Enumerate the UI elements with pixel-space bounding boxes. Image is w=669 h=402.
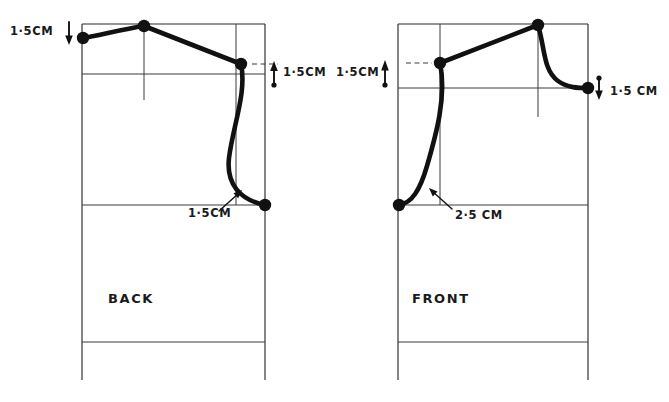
back-piece-group: 1·5CM 1·5CM 1·5CM BACK (10, 20, 326, 380)
back-shoulder-raise-label: 1·5CM (283, 65, 326, 79)
back-shoulder-seam-line (83, 26, 241, 64)
front-shoulder-seam-line (440, 25, 538, 63)
back-piece-label: BACK (108, 291, 154, 306)
front-underarm-dot (393, 199, 405, 211)
front-shoulder-drop-arrow (595, 75, 603, 100)
front-neck-raise-arrow (381, 60, 389, 88)
back-shoulder-end-dot (235, 58, 247, 70)
back-shoulder-raise-arrow (270, 61, 278, 88)
back-armhole-scoop-label: 1·5CM (188, 206, 231, 220)
back-shoulder-apex-dot (138, 20, 150, 32)
front-neck-raise-label: 1·5CM (336, 65, 379, 79)
front-piece-group: 1·5CM 1·5 CM 2·5 CM FRONT (336, 19, 658, 380)
pattern-drawing-canvas: 1·5CM 1·5CM 1·5CM BACK (0, 0, 669, 402)
back-armhole-curve (229, 64, 265, 205)
pattern-diagram: 1·5CM 1·5CM 1·5CM BACK (0, 0, 669, 402)
front-neck-point-dot (434, 57, 446, 69)
front-shoulder-drop-label: 1·5 CM (610, 84, 658, 98)
front-armhole-scoop-label: 2·5 CM (455, 208, 503, 222)
back-neck-drop-label: 1·5CM (10, 24, 53, 38)
front-piece-label: FRONT (412, 291, 470, 306)
back-neck-drop-arrow (65, 22, 73, 45)
back-underarm-dot (259, 199, 271, 211)
front-shoulder-end-dot (582, 82, 594, 94)
front-armhole-upper-curve (538, 25, 588, 88)
front-shoulder-apex-dot (532, 19, 544, 31)
front-armhole-curve (399, 63, 442, 205)
back-neck-point-dot (77, 32, 89, 44)
